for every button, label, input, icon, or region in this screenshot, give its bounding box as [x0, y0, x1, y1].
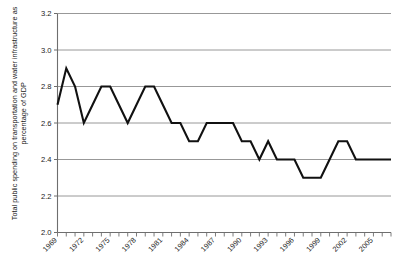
chart-plot-svg: 3.23.02.82.62.42.22.0 196919721975197819…: [0, 0, 401, 273]
y-axis-tick-label: 2.4: [41, 155, 52, 164]
x-axis-tick-label: 1996: [278, 236, 296, 254]
x-axis-tick-label: 1987: [199, 236, 217, 254]
y-axis-tick-label: 2.2: [41, 192, 52, 201]
x-axis-tick-label: 1981: [146, 236, 164, 254]
x-axis-tick-label: 1978: [120, 236, 138, 254]
x-axis-tick-label: 1969: [41, 236, 59, 254]
y-axis-tick-label: 2.0: [41, 228, 52, 237]
y-axis-tick-label: 3.2: [41, 9, 52, 18]
x-axis-tick-label: 2005: [357, 236, 375, 254]
gridlines-group: [58, 14, 392, 197]
x-axis-tick-label: 1984: [173, 236, 191, 254]
x-axis-ticks-group: 1969197219751978198119841987199019931996…: [41, 233, 391, 254]
y-axis-ticks-group: 3.23.02.82.62.42.22.0: [41, 9, 58, 237]
x-axis-tick-label: 1990: [225, 236, 243, 254]
y-axis-tick-label: 3.0: [41, 46, 52, 55]
y-axis-tick-label: 2.6: [41, 119, 52, 128]
y-axis-tick-label: 2.8: [41, 82, 52, 91]
chart-container: Total public spending on transportation …: [0, 0, 401, 273]
x-axis-tick-label: 1993: [252, 236, 270, 254]
x-axis-tick-label: 2002: [331, 236, 349, 254]
x-axis-tick-label: 1975: [94, 236, 112, 254]
x-axis-tick-label: 1972: [67, 236, 85, 254]
x-axis-tick-label: 1999: [304, 236, 322, 254]
